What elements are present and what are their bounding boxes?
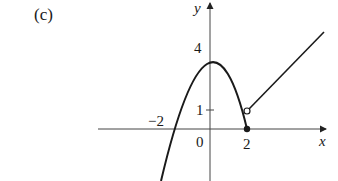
x-tick-label-2: 2: [243, 137, 251, 152]
x-tick-label-neg2: −2: [148, 114, 164, 129]
x-axis-label: x: [319, 134, 326, 149]
closed-endpoint: [244, 126, 250, 132]
y-tick-label-4: 4: [194, 41, 202, 56]
y-axis-label: y: [194, 1, 201, 16]
graph: [0, 0, 338, 181]
open-endpoint: [244, 108, 250, 114]
y-tick-label-1: 1: [196, 103, 204, 118]
line-piece: [249, 32, 324, 109]
parabola-curve: [161, 62, 247, 181]
origin-label: 0: [196, 135, 204, 150]
